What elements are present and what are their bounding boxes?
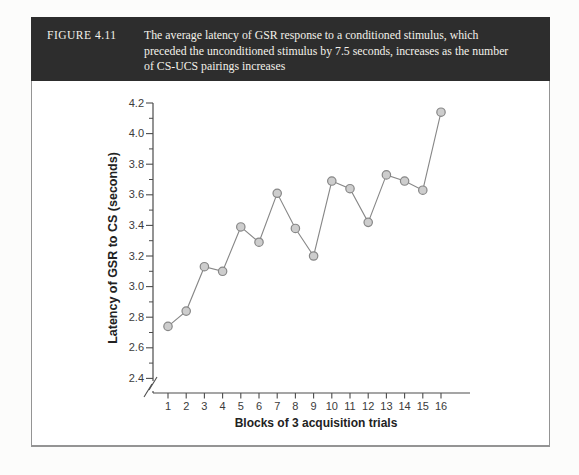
x-axis-title: Blocks of 3 acquisition trials [235, 416, 398, 430]
y-axis-title: Latency of GSR to CS (seconds) [106, 152, 120, 344]
data-point [309, 252, 317, 260]
axis-break-icon [144, 384, 152, 397]
data-point [400, 177, 408, 185]
y-tick-label: 2.4 [129, 372, 144, 384]
x-tick-label: 5 [238, 400, 244, 412]
y-tick-label: 2.6 [129, 341, 144, 353]
y-tick-label: 3.8 [129, 158, 144, 170]
y-tick-label: 4.2 [129, 97, 144, 109]
caption-line-1: The average latency of GSR response to a… [144, 28, 508, 44]
y-tick-label: 3.6 [129, 188, 144, 200]
caption-line-2: preceded the unconditioned stimulus by 7… [144, 44, 508, 60]
y-tick-label: 3.4 [129, 219, 144, 231]
data-point [164, 322, 172, 330]
data-point [346, 184, 354, 192]
data-point [200, 263, 208, 271]
x-tick-label: 4 [220, 400, 226, 412]
x-tick-label: 8 [292, 400, 298, 412]
data-point [255, 238, 263, 246]
data-point [291, 224, 299, 232]
caption-line-3: of CS-UCS pairings increases [144, 59, 508, 75]
y-tick-label: 3.2 [129, 250, 144, 262]
data-point [364, 218, 372, 226]
data-point [437, 108, 445, 116]
x-tick-label: 15 [417, 400, 429, 412]
figure-panel: FIGURE 4.11 The average latency of GSR r… [31, 17, 550, 447]
x-tick-label: 6 [256, 400, 262, 412]
data-line [168, 112, 441, 326]
data-point [328, 177, 336, 185]
y-tick-label: 2.8 [129, 311, 144, 323]
x-tick-label: 10 [326, 400, 338, 412]
x-tick-label: 13 [380, 400, 392, 412]
y-tick-label: 3.0 [129, 280, 144, 292]
data-point [382, 171, 390, 179]
x-tick-label: 2 [183, 400, 189, 412]
y-tick-label: 4.0 [129, 127, 144, 139]
data-point [237, 223, 245, 231]
data-point [273, 189, 281, 197]
data-point [182, 307, 190, 315]
figure-header: FIGURE 4.11 The average latency of GSR r… [31, 17, 550, 81]
x-tick-label: 9 [311, 400, 317, 412]
x-tick-label: 14 [398, 400, 410, 412]
x-tick-label: 3 [201, 400, 207, 412]
x-tick-label: 11 [344, 400, 355, 412]
x-tick-label: 12 [362, 400, 374, 412]
x-tick-label: 1 [165, 400, 171, 412]
x-tick-label: 16 [435, 400, 447, 412]
figure-caption: The average latency of GSR response to a… [144, 28, 508, 75]
data-point [218, 267, 226, 275]
chart-area: 2.42.62.83.03.23.43.63.84.04.21234567891… [32, 81, 549, 445]
page: FIGURE 4.11 The average latency of GSR r… [0, 0, 579, 475]
x-tick-label: 7 [274, 400, 280, 412]
latency-line-chart: 2.42.62.83.03.23.43.63.84.04.21234567891… [32, 81, 549, 445]
figure-number-label: FIGURE 4.11 [47, 28, 144, 41]
data-point [419, 186, 427, 194]
